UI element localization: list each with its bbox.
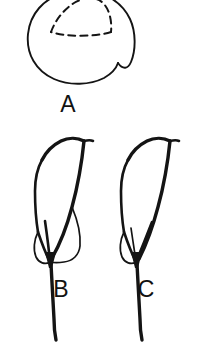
panel-b-apex-tip <box>84 140 93 141</box>
panel-c-apex-tip <box>170 140 179 141</box>
panel-label-a: A <box>60 91 76 117</box>
figure-drawing: A B <box>0 0 210 343</box>
panel-label-c: C <box>138 276 155 302</box>
figure-container: A B <box>0 0 210 343</box>
panel-label-b: B <box>53 276 68 302</box>
figure-background <box>0 0 210 343</box>
